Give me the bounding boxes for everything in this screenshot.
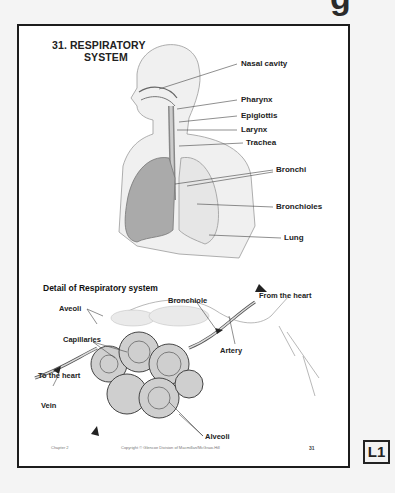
label-bronchiole: Bronchiole: [168, 296, 207, 305]
footer-chapter: Chapter 2: [51, 445, 69, 450]
label-artery: Artery: [220, 346, 242, 355]
label-vein: Vein: [41, 401, 56, 410]
label-larynx: Larynx: [241, 125, 267, 134]
label-pharynx: Pharynx: [241, 95, 273, 104]
detail-title: Detail of Respiratory system: [43, 283, 158, 293]
label-lung: Lung: [284, 233, 304, 242]
worksheet-card: 31. RESPIRATORY SYSTEM: [17, 24, 350, 468]
label-alveoli: Alveoli: [205, 432, 230, 441]
label-bronchioles: Bronchioles: [276, 202, 322, 211]
level-badge: L1: [363, 440, 390, 464]
label-bronchi: Bronchi: [276, 165, 306, 174]
footer-copyright: Copyright © Glencoe Division of Macmilla…: [121, 445, 220, 450]
respiratory-illustration: [19, 26, 352, 470]
label-capillaries: Capillaries: [63, 335, 101, 344]
label-trachea: Trachea: [246, 138, 276, 147]
label-to-the-heart: To the heart: [38, 371, 80, 380]
label-aveoli: Aveoli: [59, 304, 81, 313]
label-from-the-heart: From the heart: [259, 291, 312, 300]
footer-page-number: 31: [309, 445, 315, 451]
background-heading-fragment: g: [330, 0, 351, 17]
label-epiglottis: Epiglottis: [241, 111, 277, 120]
label-nasal-cavity: Nasal cavity: [241, 59, 287, 68]
